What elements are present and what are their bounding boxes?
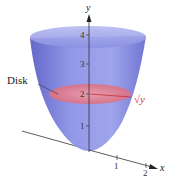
- x-axis-arrow-icon: [149, 164, 158, 169]
- y-tick-label-1: 1: [80, 121, 85, 131]
- y-tick-label-3: 3: [80, 59, 85, 69]
- paraboloid-top-rim: [30, 26, 146, 48]
- y-tick-label-4: 4: [80, 30, 85, 40]
- radius-label: √y: [134, 93, 145, 105]
- x-tick-label-2: 2: [143, 168, 148, 178]
- x-axis-line: [89, 150, 152, 167]
- paraboloid-diagram: y 4 3 2 1 1 2 x Disk √y: [0, 0, 170, 178]
- x-axis-label: x: [159, 162, 165, 173]
- disk-label: Disk: [7, 74, 28, 86]
- y-tick-label-2: 2: [80, 89, 85, 99]
- y-axis-label: y: [85, 2, 91, 13]
- x-tick-label-1: 1: [114, 161, 119, 171]
- y-axis-arrow-icon: [87, 14, 92, 22]
